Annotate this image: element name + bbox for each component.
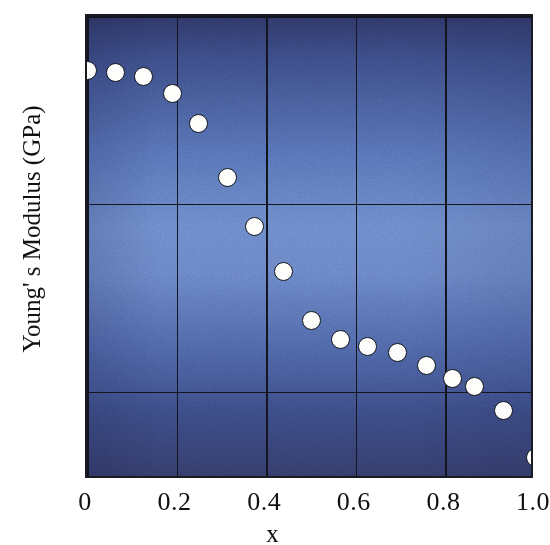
- data-point: [388, 343, 407, 362]
- data-point: [106, 63, 125, 82]
- data-point: [274, 262, 293, 281]
- x-tick-label: 0: [78, 487, 92, 517]
- gridline-x-0.8: [445, 16, 447, 476]
- data-point: [358, 337, 377, 356]
- gridline-y-280: [87, 204, 531, 206]
- data-point: [465, 377, 484, 396]
- gridline-x-0: [87, 16, 89, 476]
- gridline-x-0.4: [266, 16, 268, 476]
- plot-noise-texture: [87, 16, 531, 476]
- x-tick-label: 0.8: [426, 487, 460, 517]
- x-tick-label: 0.4: [247, 487, 281, 517]
- data-point: [134, 67, 153, 86]
- gridline-x-0.6: [356, 16, 358, 476]
- gridline-y-290: [87, 16, 531, 18]
- data-point: [189, 114, 208, 133]
- x-tick-label: 0.6: [337, 487, 371, 517]
- plot-area: [85, 14, 533, 478]
- data-point: [245, 217, 264, 236]
- x-tick-label: 0.2: [158, 487, 192, 517]
- data-point: [163, 84, 182, 103]
- gridline-y-270: [87, 392, 531, 394]
- x-axis-title: x: [0, 520, 545, 545]
- data-point: [331, 330, 350, 349]
- data-point: [494, 401, 513, 420]
- y-axis-title: Young' s Modulus (GPa): [18, 29, 46, 429]
- data-point: [417, 356, 436, 375]
- data-point: [443, 369, 462, 388]
- x-tick-label: 1.0: [516, 487, 550, 517]
- data-point: [218, 168, 237, 187]
